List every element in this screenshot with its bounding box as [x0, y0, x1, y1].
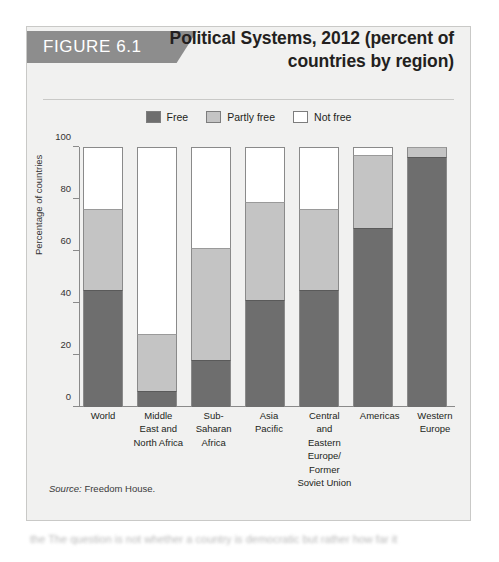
bar-segment-not-free	[353, 147, 393, 155]
bar-segment-free	[83, 290, 123, 407]
x-tick-label: World	[75, 409, 131, 422]
legend-swatch-not-free-icon	[293, 111, 308, 123]
bar-segment-partly-free	[299, 209, 339, 290]
bar-segment-partly-free	[353, 155, 393, 228]
page-body-text: the The question is not whether a countr…	[30, 533, 470, 545]
bar-column	[299, 147, 339, 407]
x-tick-label: Sub-SaharanAfrica	[186, 409, 242, 449]
legend-item-free: Free	[146, 111, 189, 123]
bar-column	[353, 147, 393, 407]
legend-swatch-partly-free-icon	[206, 111, 221, 123]
bar-segment-partly-free	[191, 248, 231, 360]
legend-label-not-free: Not free	[314, 111, 351, 123]
y-tick-label: 60	[60, 235, 79, 246]
y-axis-title: Percentage of countries	[33, 155, 44, 255]
x-tick-label: WesternEurope	[407, 409, 463, 436]
bar-column	[137, 147, 177, 407]
bar-column	[83, 147, 123, 407]
figure-title: Political Systems, 2012 (percent of coun…	[164, 27, 454, 73]
bar-segment-not-free	[137, 147, 177, 334]
y-axis-line	[79, 147, 80, 407]
y-tick-mark	[73, 302, 79, 303]
figure-source: Source: Freedom House.	[49, 483, 155, 494]
bar-segment-partly-free	[407, 147, 447, 157]
bar-segment-free	[191, 360, 231, 407]
bar-segment-partly-free	[83, 209, 123, 290]
x-tick-label: CentralandEasternEurope/FormerSoviet Uni…	[296, 409, 352, 490]
y-tick-mark	[73, 146, 79, 147]
bar-segment-partly-free	[245, 202, 285, 301]
bar-column	[245, 147, 285, 407]
x-tick-label: AsiaPacific	[241, 409, 297, 436]
chart-axes: 020406080100	[79, 147, 451, 407]
y-tick-label: 0	[66, 391, 79, 402]
x-axis-labels: WorldMiddleEast andNorth AfricaSub-Sahar…	[83, 409, 455, 490]
bar-segment-partly-free	[137, 334, 177, 391]
x-tick-label: MiddleEast andNorth Africa	[130, 409, 186, 449]
legend-item-not-free: Not free	[293, 111, 351, 123]
bar-segment-not-free	[299, 147, 339, 209]
figure-card: FIGURE 6.1 Political Systems, 2012 (perc…	[26, 26, 471, 521]
legend-label-partly-free: Partly free	[227, 111, 275, 123]
bar-segment-not-free	[83, 147, 123, 209]
y-tick-mark	[73, 250, 79, 251]
chart-legend: Free Partly free Not free	[27, 111, 470, 123]
bar-segment-free	[299, 290, 339, 407]
bar-segment-not-free	[191, 147, 231, 248]
figure-page: FIGURE 6.1 Political Systems, 2012 (perc…	[0, 0, 499, 562]
legend-swatch-free-icon	[146, 111, 161, 123]
legend-label-free: Free	[167, 111, 189, 123]
chart-plot-area: Percentage of countries 020406080100	[27, 137, 470, 437]
legend-item-partly-free: Partly free	[206, 111, 275, 123]
x-tick-label: Americas	[352, 409, 408, 422]
source-text: Freedom House.	[84, 483, 155, 494]
bar-segment-free	[407, 157, 447, 407]
bar-segment-free	[245, 300, 285, 407]
y-tick-mark	[73, 198, 79, 199]
y-tick-label: 100	[55, 131, 79, 142]
bar-column	[407, 147, 447, 407]
bar-column	[191, 147, 231, 407]
y-tick-mark	[73, 354, 79, 355]
source-prefix: Source:	[49, 483, 82, 494]
bar-group	[83, 147, 447, 407]
bar-segment-free	[353, 228, 393, 407]
y-tick-mark	[73, 406, 79, 407]
bar-segment-not-free	[245, 147, 285, 202]
y-tick-label: 80	[60, 183, 79, 194]
y-tick-label: 20	[60, 339, 79, 350]
y-tick-label: 40	[60, 287, 79, 298]
header-divider	[43, 99, 454, 100]
figure-header: FIGURE 6.1 Political Systems, 2012 (perc…	[27, 27, 470, 89]
bar-segment-free	[137, 391, 177, 407]
